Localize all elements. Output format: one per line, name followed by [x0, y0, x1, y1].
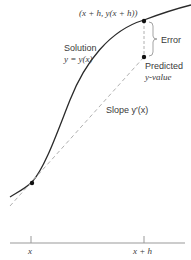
slope-label: Slope y′(x): [106, 105, 148, 115]
predicted-point: [142, 55, 146, 59]
predicted-value-label: y-value: [144, 72, 171, 82]
true-point: [142, 19, 146, 23]
solution-curve: [10, 5, 191, 197]
error-brace: [149, 22, 157, 56]
solution-equation: y = y(x): [63, 54, 93, 64]
solution-label: Solution: [64, 43, 97, 53]
axis-label-x-plus-h: x + h: [132, 246, 153, 256]
error-label: Error: [161, 35, 181, 45]
axis-label-x: x: [27, 246, 32, 256]
start-point: [30, 181, 34, 185]
true-point-label: (x + h, y(x + h)): [79, 8, 138, 18]
euler-method-diagram: (x + h, y(x + h)) Error Solution y = y(x…: [0, 0, 191, 260]
predicted-label: Predicted: [145, 61, 183, 71]
